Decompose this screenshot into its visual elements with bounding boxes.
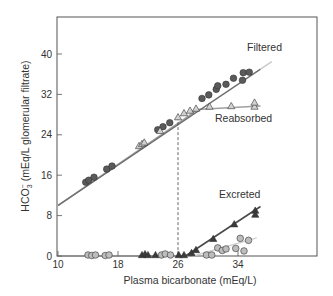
point-excreted-lower [106, 252, 113, 259]
point-filtered [246, 69, 253, 76]
x-tick-label: 26 [172, 259, 184, 270]
point-excreted-lower [92, 252, 99, 259]
y-tick-label: 16 [41, 170, 53, 181]
point-excreted-lower [237, 235, 244, 242]
x-tick-label: 10 [52, 259, 64, 270]
point-filtered [166, 119, 173, 126]
point-excreted-lower [245, 237, 252, 244]
point-reabsorbed [174, 114, 181, 120]
series-label-excreted: Excreted [219, 188, 261, 200]
series-label-reabsorbed: Reabsorbed [215, 112, 272, 124]
x-tick-label: 18 [112, 259, 124, 270]
point-excreted-lower [167, 252, 174, 259]
y-tick-label: 32 [41, 89, 53, 100]
point-filtered [239, 77, 246, 84]
point-filtered [214, 83, 221, 90]
chart: 101826340816243240 Plasma bicarbonate (m… [0, 0, 333, 296]
x-tick-label: 34 [232, 259, 244, 270]
point-filtered [230, 75, 237, 82]
y-tick-label: 24 [41, 129, 53, 140]
y-tick-label: 40 [41, 49, 53, 60]
y-axis-title-main: HCO [19, 188, 31, 211]
point-reabsorbed [192, 105, 199, 111]
y-tick-label: 8 [46, 210, 52, 221]
x-axis-title: Plasma bicarbonate (mEq/L) [123, 274, 256, 286]
point-filtered [91, 174, 98, 181]
point-excreted-lower [232, 245, 239, 252]
y-axis-title-rest: (mEq/L glomerular filtrate) [19, 60, 31, 184]
y-axis-title: HCO3− (mEq/L glomerular filtrate) [19, 60, 33, 211]
point-excreted-lower [223, 246, 230, 253]
point-reabsorbed [186, 107, 193, 113]
point-excreted-lower [241, 248, 248, 255]
fit-line-filtered-extension [261, 62, 272, 70]
point-reabsorbed [206, 103, 213, 109]
point-filtered [223, 81, 230, 88]
point-reabsorbed [228, 102, 235, 108]
y-tick-label: 0 [46, 251, 52, 262]
point-filtered [109, 163, 116, 170]
fit-line-filtered [58, 69, 261, 205]
series-label-filtered: Filtered [247, 41, 282, 53]
point-filtered [199, 95, 206, 102]
point-filtered [205, 92, 212, 99]
point-filtered [240, 69, 247, 76]
point-reabsorbed [251, 99, 258, 105]
point-excreted-lower [208, 252, 215, 259]
